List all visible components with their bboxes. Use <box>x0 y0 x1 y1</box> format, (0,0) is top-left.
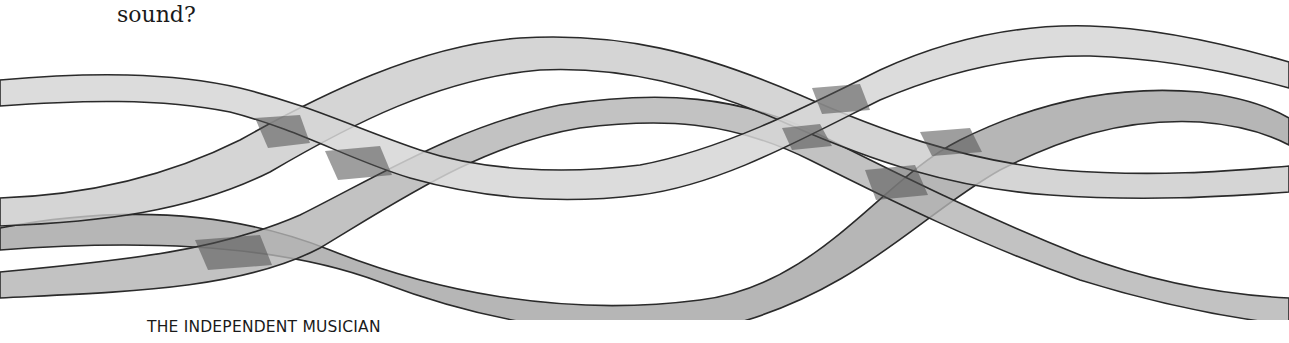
running-footer-title: THE INDEPENDENT MUSICIAN <box>147 318 381 336</box>
ribbons-illustration <box>0 20 1289 320</box>
